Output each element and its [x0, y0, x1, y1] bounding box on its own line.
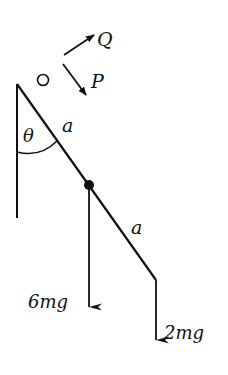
lower-segment-label: a [131, 216, 142, 238]
force-p-arrow [63, 64, 86, 95]
angle-label: θ [23, 125, 34, 146]
pivot-circle-icon [38, 75, 49, 86]
force-p-label: P [90, 70, 105, 92]
force-q-arrow [64, 35, 94, 55]
load-end-label: 2mg [163, 322, 204, 343]
force-q-label: Q [97, 28, 113, 50]
rod-diagram: Q P θ a a 6mg 2mg [0, 0, 228, 375]
upper-segment-label: a [62, 114, 73, 136]
load-middle-label: 6mg [28, 291, 68, 312]
